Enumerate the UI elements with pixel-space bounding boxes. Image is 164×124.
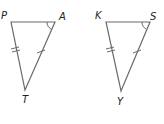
angle-arc-s [142,22,146,29]
triangle-pat-outline [11,22,55,90]
vertex-label-p: P [1,10,8,21]
triangle-ksy: K S Y [95,10,157,107]
angle-arc-a [47,22,51,29]
vertex-label-a: A [58,11,66,22]
congruent-triangles-diagram: P A T K S Y [0,0,164,124]
vertex-label-k: K [95,10,103,21]
vertex-label-s: S [150,11,157,22]
vertex-label-t: T [22,94,29,105]
double-tick-mark-pt [11,47,20,52]
triangle-pat: P A T [1,10,66,105]
vertex-label-y: Y [117,96,124,107]
double-tick-mark-ky [106,47,115,52]
triangle-ksy-outline [106,22,150,91]
